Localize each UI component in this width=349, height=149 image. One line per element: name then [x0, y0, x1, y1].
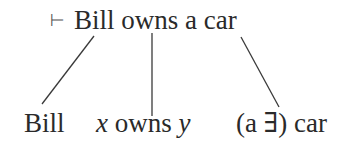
variable-y: y: [179, 108, 191, 138]
child-exists-car: (a ∃) car: [236, 110, 327, 137]
parse-tree-diagram: ⊢ Bill owns a car Bill x owns y (a ∃) ca…: [0, 0, 349, 149]
edge-to-car: [241, 37, 279, 107]
variable-x: x: [96, 108, 108, 138]
child-x-owns-y: x owns y: [96, 110, 190, 137]
child-bill: Bill: [24, 110, 65, 137]
predicate-owns: owns: [108, 108, 179, 138]
edge-to-bill: [42, 36, 94, 104]
